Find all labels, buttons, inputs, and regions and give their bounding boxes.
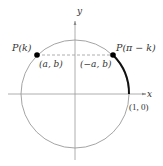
point-p-k [34, 52, 40, 58]
coords-neg-a-b: (−a, b) [80, 59, 112, 69]
label-p-k: P(k) [11, 42, 32, 53]
arc-length-k [113, 55, 129, 94]
point-p-pi-minus-k [110, 52, 116, 58]
unit-circle-diagram: y x P(k) P(π − k) (a, b) (−a, b) (1, 0) [0, 0, 163, 166]
intercept-1-0: (1, 0) [129, 102, 149, 112]
label-p-pi-minus-k: P(π − k) [115, 42, 156, 53]
x-axis-label: x [147, 89, 152, 99]
coords-a-b: (a, b) [39, 59, 63, 69]
y-axis-label: y [76, 6, 83, 16]
